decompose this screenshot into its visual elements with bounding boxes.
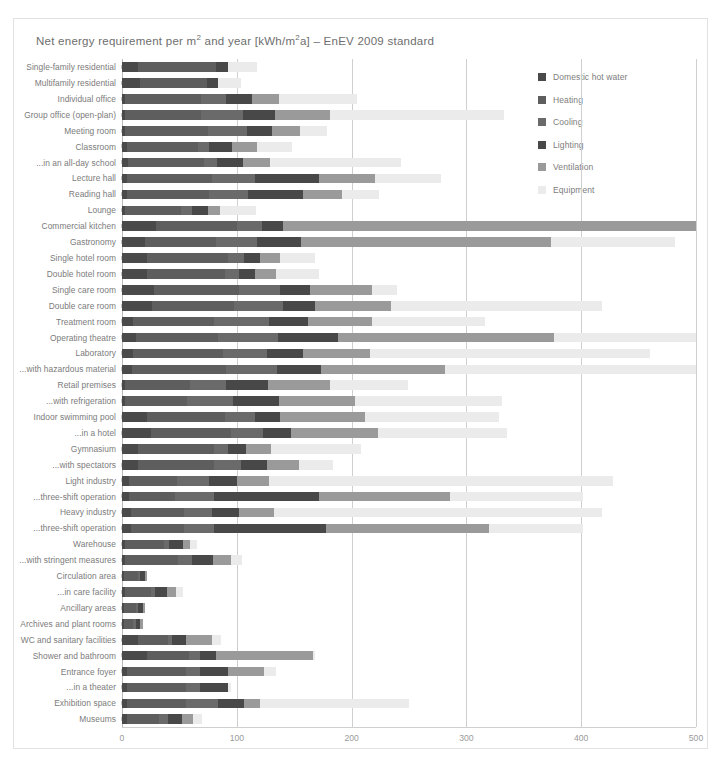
bar-row[interactable]: Gastronomy — [122, 234, 696, 250]
stacked-bar[interactable] — [122, 555, 242, 565]
bar-row[interactable]: ...in a hotel — [122, 425, 696, 441]
stacked-bar[interactable] — [122, 365, 696, 375]
bar-segment-heating — [125, 396, 187, 406]
bar-row[interactable]: Classroom — [122, 139, 696, 155]
bar-row[interactable]: Commercial kitchen — [122, 218, 696, 234]
stacked-bar[interactable] — [122, 412, 499, 422]
bar-row[interactable]: Light industry — [122, 473, 696, 489]
bar-segment-heating — [147, 412, 225, 422]
bar-row[interactable]: Meeting room — [122, 123, 696, 139]
category-label: ...in care facility — [57, 584, 116, 600]
bar-row[interactable]: Lounge — [122, 202, 696, 218]
bar-row[interactable]: Warehouse — [122, 536, 696, 552]
bar-row[interactable]: Double care room — [122, 298, 696, 314]
bar-row[interactable]: Museums — [122, 711, 696, 727]
bar-row[interactable]: Entrance foyer — [122, 663, 696, 679]
stacked-bar[interactable] — [122, 174, 441, 184]
stacked-bar[interactable] — [122, 587, 183, 597]
bar-row[interactable]: Heavy industry — [122, 504, 696, 520]
bar-segment-domestic-hot-water — [122, 635, 138, 645]
bar-segment-ventilation — [268, 380, 330, 390]
stacked-bar[interactable] — [122, 190, 379, 200]
stacked-bar[interactable] — [122, 253, 315, 263]
bar-segment-lighting — [207, 78, 218, 88]
bar-row[interactable]: Ancillary areas — [122, 600, 696, 616]
stacked-bar[interactable] — [122, 571, 147, 581]
bar-segment-cooling — [186, 699, 218, 709]
stacked-bar[interactable] — [122, 110, 504, 120]
stacked-bar[interactable] — [122, 619, 143, 629]
bar-row[interactable]: Operating theatre — [122, 329, 696, 345]
stacked-bar[interactable] — [122, 349, 650, 359]
stacked-bar[interactable] — [122, 206, 256, 216]
bar-row[interactable]: ...three-shift operation — [122, 520, 696, 536]
category-label: Treatment room — [56, 313, 116, 329]
bar-row[interactable]: Single care room — [122, 282, 696, 298]
bar-segment-equipment — [554, 333, 696, 343]
bar-row[interactable]: Gymnasium — [122, 441, 696, 457]
x-axis-line — [122, 727, 696, 728]
stacked-bar[interactable] — [122, 94, 357, 104]
bar-row[interactable]: ...in care facility — [122, 584, 696, 600]
bar-row[interactable]: Archives and plant rooms — [122, 616, 696, 632]
stacked-bar[interactable] — [122, 126, 327, 136]
bar-row[interactable]: Group office (open-plan) — [122, 107, 696, 123]
bar-row[interactable]: ...in a theater — [122, 679, 696, 695]
bar-row[interactable]: Indoor swimming pool — [122, 409, 696, 425]
bar-row[interactable]: WC and sanitary facilities — [122, 632, 696, 648]
stacked-bar[interactable] — [122, 142, 292, 152]
bar-row[interactable]: ...three-shift operation — [122, 488, 696, 504]
bar-row[interactable]: ...in an all-day school — [122, 154, 696, 170]
stacked-bar[interactable] — [122, 285, 397, 295]
stacked-bar[interactable] — [122, 396, 502, 406]
stacked-bar[interactable] — [122, 508, 602, 518]
stacked-bar[interactable] — [122, 317, 485, 327]
stacked-bar[interactable] — [122, 524, 583, 534]
stacked-bar[interactable] — [122, 158, 401, 168]
stacked-bar[interactable] — [122, 667, 276, 677]
stacked-bar[interactable] — [122, 492, 583, 502]
stacked-bar[interactable] — [122, 444, 361, 454]
stacked-bar[interactable] — [122, 221, 696, 231]
bar-row[interactable]: Treatment room — [122, 313, 696, 329]
bar-row[interactable]: Multifamily residential — [122, 75, 696, 91]
bar-row[interactable]: Retail premises — [122, 377, 696, 393]
bar-segment-heating — [147, 253, 227, 263]
stacked-bar[interactable] — [122, 540, 197, 550]
stacked-bar[interactable] — [122, 62, 257, 72]
bar-row[interactable]: ...with stringent measures — [122, 552, 696, 568]
bar-row[interactable]: Reading hall — [122, 186, 696, 202]
stacked-bar[interactable] — [122, 603, 145, 613]
stacked-bar[interactable] — [122, 301, 602, 311]
bar-row[interactable]: Shower and bathroom — [122, 647, 696, 663]
bar-row[interactable]: Circulation area — [122, 568, 696, 584]
stacked-bar[interactable] — [122, 269, 319, 279]
stacked-bar[interactable] — [122, 78, 241, 88]
stacked-bar[interactable] — [122, 651, 315, 661]
bar-row[interactable]: Laboratory — [122, 345, 696, 361]
stacked-bar[interactable] — [122, 699, 409, 709]
stacked-bar[interactable] — [122, 635, 221, 645]
bar-row[interactable]: ...with hazardous material — [122, 361, 696, 377]
bar-row[interactable]: Lecture hall — [122, 170, 696, 186]
stacked-bar[interactable] — [122, 683, 231, 693]
bar-row[interactable]: Single-family residential — [122, 59, 696, 75]
stacked-bar[interactable] — [122, 380, 408, 390]
bar-segment-cooling — [231, 428, 263, 438]
stacked-bar[interactable] — [122, 428, 507, 438]
bar-row[interactable]: ...with refrigeration — [122, 393, 696, 409]
bar-row[interactable]: Single hotel room — [122, 250, 696, 266]
bar-row[interactable]: Double hotel room — [122, 266, 696, 282]
bar-segment-lighting — [278, 333, 338, 343]
stacked-bar[interactable] — [122, 237, 675, 247]
bar-row[interactable]: ...with spectators — [122, 457, 696, 473]
stacked-bar[interactable] — [122, 714, 202, 724]
bar-segment-equipment — [280, 253, 314, 263]
bar-row[interactable]: Exhibition space — [122, 695, 696, 711]
stacked-bar[interactable] — [122, 333, 696, 343]
stacked-bar[interactable] — [122, 476, 613, 486]
stacked-bar[interactable] — [122, 460, 333, 470]
bar-row[interactable]: Individual office — [122, 91, 696, 107]
bar-segment-equipment — [378, 428, 507, 438]
bar-segment-domestic-hot-water — [122, 349, 133, 359]
